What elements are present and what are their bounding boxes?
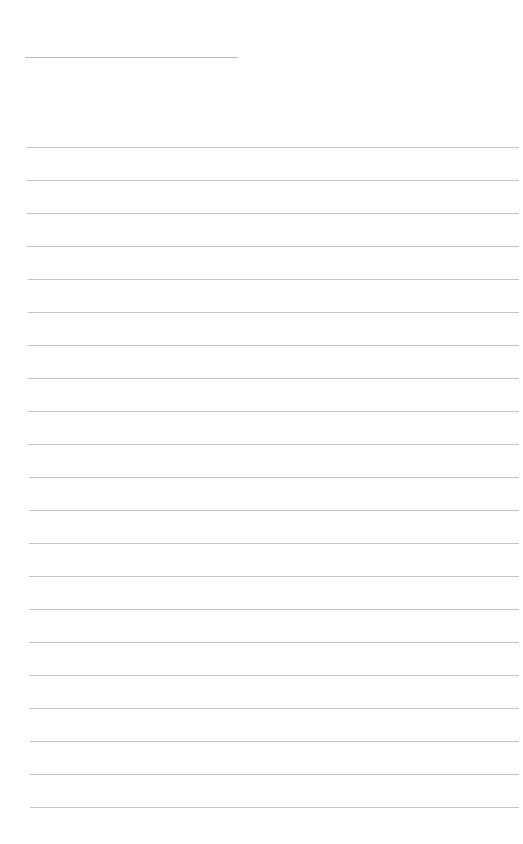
ruled-line xyxy=(29,609,519,610)
ruled-line xyxy=(29,576,519,577)
ruled-line xyxy=(30,741,519,742)
ruled-line xyxy=(28,345,519,346)
ruled-line xyxy=(29,510,519,511)
ruled-line xyxy=(28,411,519,412)
header-rule-line xyxy=(25,57,238,58)
ruled-line xyxy=(27,246,519,247)
ruled-line xyxy=(29,543,519,544)
ruled-line xyxy=(28,378,519,379)
ruled-line xyxy=(28,279,519,280)
ruled-line xyxy=(28,444,519,445)
ruled-line xyxy=(30,807,519,808)
ruled-line xyxy=(27,213,519,214)
ruled-line xyxy=(30,708,519,709)
ruled-line xyxy=(29,642,519,643)
ruled-line xyxy=(27,147,519,148)
ruled-line xyxy=(29,675,519,676)
ruled-line xyxy=(30,774,519,775)
ruled-line xyxy=(27,180,519,181)
ruled-line xyxy=(29,477,519,478)
lined-page xyxy=(0,0,523,844)
ruled-line xyxy=(28,312,519,313)
